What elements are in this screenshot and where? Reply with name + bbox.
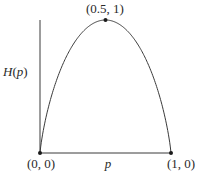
entropy-chart: (0.5, 1) (0, 0) (1, 0) p H(p) <box>0 0 201 177</box>
right-end-label: (1, 0) <box>167 156 195 171</box>
peak-point <box>104 18 108 22</box>
right-end-point <box>169 151 173 155</box>
y-axis-label-h: H <box>2 64 13 79</box>
y-axis-label-close: ) <box>23 64 27 79</box>
peak-label: (0.5, 1) <box>86 1 124 16</box>
origin-label: (0, 0) <box>27 156 55 171</box>
y-axis-label: H(p) <box>2 64 28 79</box>
x-axis-label: p <box>104 156 112 171</box>
origin-point <box>38 151 42 155</box>
entropy-curve <box>40 20 171 153</box>
